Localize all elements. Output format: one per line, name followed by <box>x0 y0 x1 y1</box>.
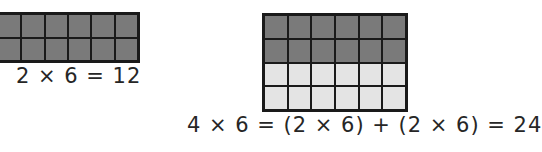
grid-cell <box>288 86 312 110</box>
grid-cell <box>45 38 68 62</box>
grid-cell <box>21 14 44 38</box>
grid-cell <box>335 63 359 87</box>
grid-cell <box>115 14 138 38</box>
grid-cell <box>311 15 335 39</box>
right-equation: 4 × 6 = (2 × 6) + (2 × 6) = 24 <box>187 113 542 137</box>
grid-cell <box>264 39 288 63</box>
grid-cell <box>359 39 383 63</box>
grid-cell <box>359 86 383 110</box>
grid-cell <box>91 14 114 38</box>
grid-cell <box>264 63 288 87</box>
grid-cell <box>311 63 335 87</box>
grid-cell <box>382 86 406 110</box>
left-array-grid <box>0 12 140 63</box>
left-equation: 2 × 6 = 12 <box>16 64 141 88</box>
grid-cell <box>68 38 91 62</box>
grid-cell <box>335 86 359 110</box>
grid-cell <box>45 14 68 38</box>
grid-cell <box>382 63 406 87</box>
grid-cell <box>359 15 383 39</box>
grid-cell <box>288 39 312 63</box>
grid-cell <box>264 86 288 110</box>
grid-cell <box>335 39 359 63</box>
grid-cell <box>359 63 383 87</box>
grid-cell <box>382 15 406 39</box>
right-array-grid <box>262 13 408 112</box>
grid-cell <box>115 38 138 62</box>
grid-cell <box>21 38 44 62</box>
grid-cell <box>382 39 406 63</box>
grid-cell <box>335 15 359 39</box>
grid-cell <box>288 63 312 87</box>
grid-cell <box>0 38 21 62</box>
grid-cell <box>68 14 91 38</box>
grid-cell <box>91 38 114 62</box>
grid-cell <box>0 14 21 38</box>
grid-cell <box>311 39 335 63</box>
grid-cell <box>311 86 335 110</box>
grid-cell <box>288 15 312 39</box>
grid-cell <box>264 15 288 39</box>
